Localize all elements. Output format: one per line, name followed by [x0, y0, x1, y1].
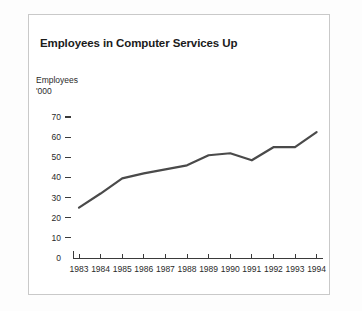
x-tick-label: 1983 — [70, 264, 89, 274]
y-tick-label: 20 — [52, 213, 62, 223]
y-tick-label: 70 — [52, 112, 62, 122]
data-series-line — [79, 132, 317, 208]
y-tick-label: 50 — [52, 152, 62, 162]
y-tick-label: 60 — [52, 132, 62, 142]
chart-card: Employees in Computer Services Up Employ… — [28, 14, 330, 295]
x-tick-label: 1989 — [199, 264, 218, 274]
y-tick-label: 30 — [52, 193, 62, 203]
x-tick-label: 1992 — [264, 264, 283, 274]
x-tick-label: 1993 — [286, 264, 305, 274]
x-tick-label: 1994 — [307, 264, 326, 274]
line-chart: 010203040506070 198319841985198619871988… — [29, 15, 329, 294]
x-tick-label: 1985 — [113, 264, 132, 274]
x-tick-label: 1984 — [91, 264, 110, 274]
x-tick-label: 1986 — [134, 264, 153, 274]
x-axis-ticks: 1983198419851986198719881989199019911992… — [70, 254, 327, 274]
x-tick-label: 1990 — [221, 264, 240, 274]
x-tick-label: 1991 — [242, 264, 261, 274]
y-tick-label: 40 — [52, 172, 62, 182]
y-tick-label: 10 — [52, 233, 62, 243]
axis-lines — [73, 251, 323, 258]
screenshot-root: Employees in Computer Services Up Employ… — [0, 0, 362, 311]
y-tick-label: 0 — [56, 253, 61, 263]
y-axis-ticks: 010203040506070 — [52, 112, 71, 263]
x-tick-label: 1987 — [156, 264, 175, 274]
x-tick-label: 1988 — [178, 264, 197, 274]
